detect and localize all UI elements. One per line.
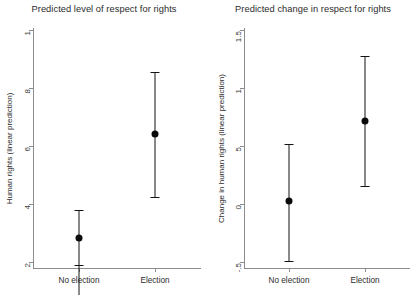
x-tick-right-no-election (289, 268, 290, 272)
error-cap-lower-left-election (151, 197, 160, 198)
y-tick-label-right-1: 1 (234, 89, 243, 93)
error-cap-lower-right-election (361, 186, 370, 187)
y-axis-title-right-text: Change in human rights (linear predictio… (217, 74, 226, 223)
x-tick-label-left-election: Election (140, 276, 169, 285)
error-cap-upper-right-election (361, 56, 370, 57)
x-tick-right-election (365, 268, 366, 272)
y-tick-left-1: 1 (29, 30, 33, 31)
panel-predicted-level: Predicted level of respect for rights Hu… (0, 0, 208, 306)
y-tick-left-06: 6 (29, 146, 33, 147)
y-tick-label-left-08: 8 (23, 89, 32, 93)
y-tick-left-04: 4 (29, 204, 33, 205)
y-tick-label-right-05: 5 (234, 147, 243, 151)
x-tick-left-election (155, 268, 156, 272)
plot-area-right: 1.5 1 5 0 -.5 No election Election (244, 28, 410, 268)
error-cap-lower-right-no-election (285, 261, 294, 262)
error-cap-upper-right-no-election (285, 144, 294, 145)
y-tick-label-right-0: 0 (234, 205, 243, 209)
plot-area-left: 1 8 6 4 2 No election Election (33, 28, 201, 268)
y-tick-right-neg05: -.5 (240, 262, 244, 263)
y-tick-label-right-neg05: -.5 (234, 263, 243, 272)
panel-title-left: Predicted level of respect for rights (0, 4, 208, 15)
y-axis-line-left (33, 28, 34, 268)
x-axis-line-right (244, 268, 410, 269)
y-tick-label-left-02: 2 (23, 263, 32, 267)
y-tick-label-left-06: 6 (23, 147, 32, 151)
x-tick-label-right-no-election: No election (269, 276, 310, 285)
figure-two-panel-prediction-plot: Predicted level of respect for rights Hu… (0, 0, 417, 306)
panel-title-right: Predicted change in respect for rights (209, 4, 417, 15)
y-tick-right-15: 1.5 (240, 30, 244, 31)
y-tick-left-08: 8 (29, 88, 33, 89)
y-axis-title-left: Human rights (linear prediction) (4, 28, 16, 268)
error-cap-lower-left-no-election (75, 265, 84, 266)
y-tick-right-0: 0 (240, 204, 244, 205)
y-tick-label-left-1: 1 (23, 31, 32, 35)
y-axis-line-right (244, 28, 245, 268)
x-tick-label-right-election: Election (350, 276, 379, 285)
x-axis-line-left (33, 268, 201, 269)
error-cap-upper-left-election (151, 72, 160, 73)
y-tick-label-left-04: 4 (23, 205, 32, 209)
error-cap-upper-left-no-election (75, 210, 84, 211)
panel-predicted-change: Predicted change in respect for rights C… (209, 0, 417, 306)
data-point-left-election (152, 131, 159, 138)
error-bar-left-no-election (79, 210, 80, 296)
data-point-right-election (362, 118, 369, 125)
y-tick-right-05: 5 (240, 146, 244, 147)
y-axis-title-left-text: Human rights (linear prediction) (6, 92, 15, 204)
y-tick-left-02: 2 (29, 262, 33, 263)
y-tick-right-1: 1 (240, 88, 244, 89)
y-tick-label-right-15: 1.5 (234, 31, 243, 42)
data-point-right-no-election (286, 197, 293, 204)
data-point-left-no-election (76, 235, 83, 242)
y-axis-title-right: Change in human rights (linear predictio… (215, 28, 227, 268)
